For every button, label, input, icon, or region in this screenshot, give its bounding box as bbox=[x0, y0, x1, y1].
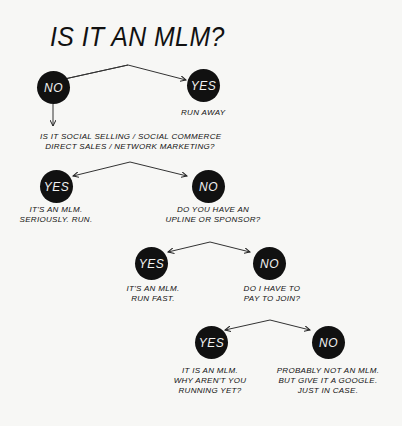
q3-question: DO YOU HAVE AN UPLINE OR SPONSOR? bbox=[163, 205, 263, 225]
q2-no-node: NO bbox=[192, 170, 225, 203]
q4-question-line2: PAY TO JOIN? bbox=[237, 294, 307, 304]
q2-yes-node: YES bbox=[40, 170, 73, 203]
q4-question-line1: DO I HAVE TO bbox=[237, 284, 307, 294]
q2-yes-result-line1: IT'S AN MLM. bbox=[16, 205, 96, 215]
q4-question: DO I HAVE TO PAY TO JOIN? bbox=[237, 284, 307, 304]
q3-yes-result: IT'S AN MLM. RUN FAST. bbox=[118, 284, 188, 304]
page-title: IS IT AN MLM? bbox=[50, 22, 225, 53]
q4-no-result: PROBABLY NOT AN MLM. BUT GIVE IT A GOOGL… bbox=[275, 366, 381, 396]
q2-question-line1: IS IT SOCIAL SELLING / SOCIAL COMMERCE bbox=[40, 132, 220, 142]
q4-no-node: NO bbox=[312, 326, 345, 359]
q3-yes-node: YES bbox=[135, 247, 168, 280]
q3-question-line1: DO YOU HAVE AN bbox=[163, 205, 263, 215]
q4-yes-result-line1: IT IS AN MLM. bbox=[170, 366, 250, 376]
q2-yes-result-line2: SERIOUSLY. RUN. bbox=[16, 215, 96, 225]
q4-no-result-line3: JUST IN CASE. bbox=[275, 386, 381, 396]
q2-question-line2: DIRECT SALES / NETWORK MARKETING? bbox=[40, 142, 220, 152]
q2-yes-result: IT'S AN MLM. SERIOUSLY. RUN. bbox=[16, 205, 96, 225]
q4-no-result-line1: PROBABLY NOT AN MLM. bbox=[275, 366, 381, 376]
q4-yes-result-line3: RUNNING YET? bbox=[170, 386, 250, 396]
q4-no-result-line2: BUT GIVE IT A GOOGLE. bbox=[275, 376, 381, 386]
q4-yes-node: YES bbox=[195, 326, 228, 359]
q3-yes-result-line1: IT'S AN MLM. bbox=[118, 284, 188, 294]
q2-question: IS IT SOCIAL SELLING / SOCIAL COMMERCE D… bbox=[40, 132, 220, 152]
q4-yes-result-line2: WHY AREN'T YOU bbox=[170, 376, 250, 386]
q3-question-line2: UPLINE OR SPONSOR? bbox=[163, 215, 263, 225]
q4-yes-result: IT IS AN MLM. WHY AREN'T YOU RUNNING YET… bbox=[170, 366, 250, 396]
q3-yes-result-line2: RUN FAST. bbox=[118, 294, 188, 304]
q1-yes-result: RUN AWAY bbox=[181, 108, 225, 118]
q3-no-node: NO bbox=[253, 247, 286, 280]
q1-yes-node: YES bbox=[187, 69, 220, 102]
q1-no-node: NO bbox=[37, 71, 70, 104]
